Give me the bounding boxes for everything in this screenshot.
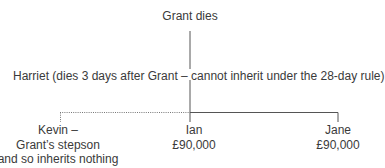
child-node-kevin: Kevin – Grant’s stepson and so inherits … (0, 123, 118, 167)
child-inheritance-amount: £90,000 (316, 138, 359, 153)
child-name: Kevin – (0, 123, 118, 138)
child-name: Jane (316, 123, 359, 138)
child-node-ian: Ian £90,000 (172, 123, 215, 152)
child-name: Ian (172, 123, 215, 138)
child-detail: Grant’s stepson (0, 138, 118, 153)
child-node-jane: Jane £90,000 (316, 123, 359, 152)
child-detail: and so inherits nothing (0, 152, 118, 167)
child-inheritance-amount: £90,000 (172, 138, 215, 153)
grant-dies-label: Grant dies (162, 9, 217, 23)
harriet-label: Harriet (dies 3 days after Grant – canno… (13, 69, 385, 83)
